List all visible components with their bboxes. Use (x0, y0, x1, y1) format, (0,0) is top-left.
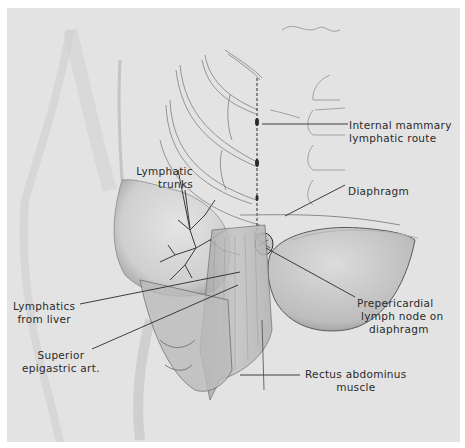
label-lymphatic-trunks: Lymphatic trunks (136, 165, 193, 191)
illustration-panel: Internal mammary lymphatic route Lymphat… (7, 8, 460, 442)
label-internal-mammary: Internal mammary lymphatic route (349, 119, 452, 145)
label-prepericardial-node: Prepericardial lymph node on diaphragm (357, 297, 444, 336)
label-lymphatics-from-liver: Lymphatics from liver (13, 300, 75, 326)
label-rectus-abdominus: Rectus abdominus muscle (305, 368, 407, 394)
diaphragm-curve (240, 215, 400, 225)
label-superior-epigastric: Superior epigastric art. (22, 349, 100, 375)
costal-cartilages (270, 26, 345, 205)
label-diaphragm: Diaphragm (348, 185, 409, 198)
